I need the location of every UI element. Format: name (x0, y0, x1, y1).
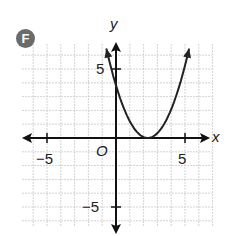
y-tick-label-neg5: −5 (82, 198, 99, 215)
problem-badge: F (16, 29, 35, 48)
x-axis-label: x (212, 128, 220, 145)
x-tick-label-5: 5 (178, 150, 186, 167)
y-axis-label: y (110, 15, 118, 32)
curve-right-arrow-icon (183, 49, 191, 59)
y-tick-label-5: 5 (96, 60, 104, 77)
origin-label: O (96, 142, 108, 159)
x-tick-label-neg5: −5 (36, 150, 53, 167)
